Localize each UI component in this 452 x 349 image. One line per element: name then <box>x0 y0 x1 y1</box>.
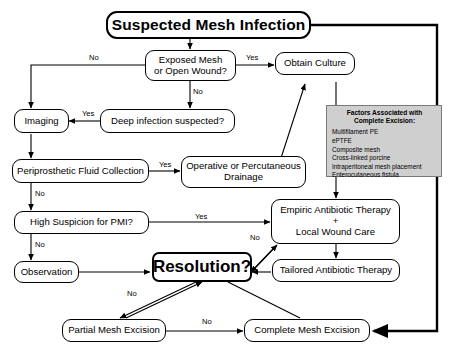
node-operative-or-percutaneous-drainage[interactable]: Operative or Percutaneous Drainage <box>181 156 306 188</box>
edge-label-no-pmi: No <box>34 241 46 249</box>
node-resolution[interactable]: Resolution? <box>152 252 252 282</box>
node-label: Periprosthetic Fluid Collection <box>17 166 144 177</box>
node-observation[interactable]: Observation <box>14 261 79 283</box>
factors-list-item: Cross-linked porcine <box>332 154 437 163</box>
edge-label-no-exposed-left: No <box>88 54 100 62</box>
node-imaging[interactable]: Imaging <box>14 109 69 133</box>
factors-heading-line2: Complete Excision: <box>332 117 437 125</box>
factors-list-item: ePTFE <box>332 137 437 146</box>
node-label: High Suspicion for PMI? <box>30 217 133 228</box>
edge-label-no-partial-complete: No <box>201 318 213 326</box>
node-periprosthetic-fluid-collection[interactable]: Periprosthetic Fluid Collection <box>12 159 149 183</box>
node-label-line1: Exposed Mesh <box>159 55 222 66</box>
node-label-line3: Local Wound Care <box>296 227 375 238</box>
node-label: Resolution? <box>153 257 251 276</box>
node-high-suspicion-for-pmi[interactable]: High Suspicion for PMI? <box>14 211 149 234</box>
edge-label-no-resolution-partial: No <box>126 290 138 298</box>
node-deep-infection-suspected[interactable]: Deep infection suspected? <box>100 109 235 133</box>
node-label-line2: Drainage <box>224 172 263 183</box>
node-label: Observation <box>21 267 73 278</box>
node-label-line2: or Open Wound? <box>154 66 227 77</box>
edge-label-no-fluid: No <box>34 190 46 198</box>
factors-list-item: Multifilament PE <box>332 128 437 137</box>
node-partial-mesh-excision[interactable]: Partial Mesh Excision <box>62 319 166 342</box>
node-empiric-antibiotic-therapy[interactable]: Empiric Antibiotic Therapy + Local Wound… <box>271 199 400 244</box>
node-complete-mesh-excision[interactable]: Complete Mesh Excision <box>244 319 370 342</box>
node-label: Suspected Mesh Infection <box>112 16 306 33</box>
factors-list-item: Intraperitoneal mesh placement <box>332 163 437 172</box>
factors-list-item: Composite mesh <box>332 146 437 155</box>
edge-label-yes-pmi: Yes <box>194 213 208 221</box>
node-suspected-mesh-infection[interactable]: Suspected Mesh Infection <box>106 11 311 39</box>
edge-label-no-resolution-empiric: No <box>249 234 261 242</box>
factors-list-item: Enterocutaneous fistula <box>332 171 437 180</box>
node-label: Imaging <box>24 116 58 127</box>
flowchart-canvas: Suspected Mesh Infection Exposed Mesh or… <box>0 0 452 349</box>
node-tailored-antibiotic-therapy[interactable]: Tailored Antibiotic Therapy <box>272 259 400 282</box>
node-label: Complete Mesh Excision <box>254 325 360 336</box>
node-label: Obtain Culture <box>284 58 346 69</box>
edge-label-no-exposed-down: No <box>192 88 204 96</box>
node-label: Deep infection suspected? <box>111 116 224 127</box>
node-exposed-mesh-or-open-wound[interactable]: Exposed Mesh or Open Wound? <box>145 50 236 81</box>
node-obtain-culture[interactable]: Obtain Culture <box>275 52 355 75</box>
factors-heading-line1: Factors Associated with <box>332 109 437 117</box>
edge-label-yes-exposed-right: Yes <box>245 54 259 62</box>
factors-list: Multifilament PE ePTFE Composite mesh Cr… <box>332 128 437 179</box>
factors-associated-with-complete-excision-box: Factors Associated with Complete Excisio… <box>326 105 442 177</box>
edge-label-yes-deep: Yes <box>81 110 95 118</box>
edge-label-yes-fluid: Yes <box>158 161 172 169</box>
node-label: Partial Mesh Excision <box>68 325 160 336</box>
node-label: Tailored Antibiotic Therapy <box>280 265 392 276</box>
